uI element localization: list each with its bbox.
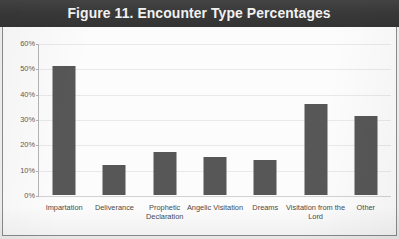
bar-group: Deliverance (89, 27, 139, 235)
y-axis-tick-label: 60% (5, 40, 35, 47)
chart-frame: 0%10%20%30%40%50%60% ImpartationDelivera… (2, 27, 397, 236)
bar-group: Dreams (240, 27, 290, 235)
bar-group: Angelic Visitation (190, 27, 240, 235)
figure-container: Figure 11. Encounter Type Percentages 0%… (0, 0, 399, 239)
bar-series: ImpartationDeliveranceProphetic Declarat… (39, 27, 391, 235)
y-axis-tick-label: 30% (5, 116, 35, 123)
bar-group: Other (341, 27, 391, 235)
y-axis-tick-label: 10% (5, 167, 35, 174)
bar (153, 152, 176, 195)
plot-area: 0%10%20%30%40%50%60% ImpartationDelivera… (3, 27, 396, 235)
y-axis-line (38, 44, 39, 197)
bar (53, 66, 76, 195)
bar (254, 160, 277, 195)
y-axis-tick-label: 50% (5, 66, 35, 73)
bar (354, 116, 377, 195)
bar (304, 104, 327, 195)
figure-title-bar: Figure 11. Encounter Type Percentages (0, 0, 399, 27)
bar (103, 165, 126, 195)
y-axis-tick-label: 0% (5, 192, 35, 199)
bar-group: Impartation (39, 27, 89, 235)
bar-group: Visitation from the Lord (290, 27, 340, 235)
figure-title: Figure 11. Encounter Type Percentages (68, 6, 331, 21)
y-axis-tick-label: 20% (5, 142, 35, 149)
x-axis-category-label: Other (335, 203, 397, 212)
y-axis-tick-label: 40% (5, 91, 35, 98)
y-axis-tick-labels: 0%10%20%30%40%50%60% (3, 27, 35, 235)
bar-group: Prophetic Declaration (140, 27, 190, 235)
bar (203, 157, 226, 195)
